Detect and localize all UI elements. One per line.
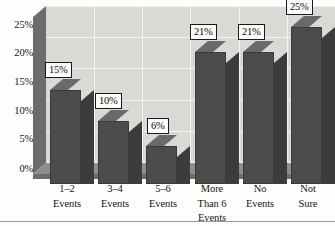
bar-front-face <box>98 121 129 184</box>
page-divider-rule <box>0 221 335 222</box>
axis-wall-left <box>33 6 46 174</box>
data-label-not-sure: 25% <box>286 0 313 15</box>
x-axis-label-line: Not <box>280 182 335 197</box>
gridline-v-1 <box>94 6 95 163</box>
chart-plot-scene: 15% 10% 6% 21% 21% 25% <box>33 6 335 184</box>
bar-top-face <box>291 16 322 27</box>
bar-3-4-events[interactable] <box>98 110 129 184</box>
gridline-v-5 <box>287 6 288 163</box>
data-label-no-events: 21% <box>238 24 265 40</box>
bar-front-face <box>146 146 177 184</box>
y-axis-tick-20: 20% <box>3 47 33 58</box>
bar-5-6-events[interactable] <box>146 135 177 184</box>
gridline-v-2 <box>142 6 143 163</box>
bar-side-face <box>274 52 287 184</box>
bar-side-face <box>226 52 239 184</box>
y-axis-tick-15: 15% <box>3 76 33 87</box>
bar-more-than-6-events[interactable] <box>195 41 226 184</box>
bar-side-face <box>81 90 94 184</box>
bar-front-face <box>195 52 226 184</box>
y-axis-tick-5: 5% <box>3 133 33 144</box>
y-axis-tick-25: 25% <box>3 19 33 30</box>
bar-side-face <box>129 121 142 184</box>
bar-front-face <box>50 90 81 184</box>
y-axis-tick-10: 10% <box>3 105 33 116</box>
bar-not-sure[interactable] <box>291 16 322 184</box>
bar-top-face <box>195 41 226 52</box>
y-axis: 25% 20% 15% 10% 5% 0% <box>0 0 33 226</box>
x-axis-label-line: Sure <box>280 197 335 212</box>
bar-no-events[interactable] <box>243 41 274 184</box>
bar-top-face <box>50 79 81 90</box>
data-label-5-6-events: 6% <box>147 118 169 134</box>
bar-front-face <box>243 52 274 184</box>
bar-top-face <box>98 110 129 121</box>
x-axis: 1–2 Events 3–4 Events 5–6 Events More Th… <box>33 182 335 226</box>
data-label-1-2-events: 15% <box>45 62 72 78</box>
x-axis-label-line: Events <box>183 211 241 226</box>
data-label-3-4-events: 10% <box>95 93 122 109</box>
bar-top-face <box>243 41 274 52</box>
data-label-more-than-6-events: 21% <box>190 24 217 40</box>
x-axis-label-not-sure: Not Sure <box>280 182 335 211</box>
bar-chart: 25% 20% 15% 10% 5% 0% <box>0 0 335 226</box>
bar-side-face <box>322 27 335 184</box>
bar-front-face <box>291 27 322 184</box>
bar-1-2-events[interactable] <box>50 79 81 184</box>
y-axis-tick-0: 0% <box>3 163 33 174</box>
bar-top-face <box>146 135 177 146</box>
